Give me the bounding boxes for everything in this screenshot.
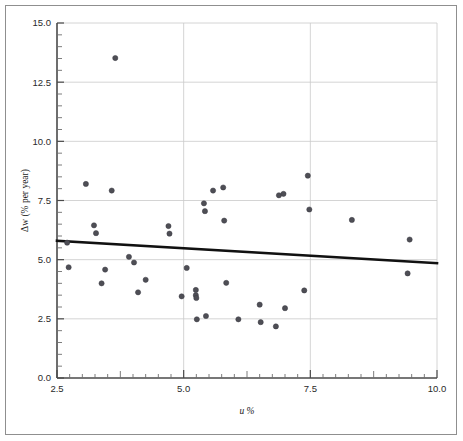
data-point — [184, 265, 189, 270]
data-points — [65, 55, 413, 329]
data-point — [349, 217, 354, 222]
x-axis-tick-label: 5.0 — [177, 383, 190, 394]
data-point — [305, 173, 310, 178]
data-point — [194, 317, 199, 322]
figure-container: 0.02.55.07.510.012.515.02.55.07.510.0 u … — [0, 0, 463, 441]
data-point — [307, 207, 312, 212]
data-point — [143, 277, 148, 282]
y-axis-title: Δw (% per year) — [20, 169, 31, 232]
data-point — [65, 240, 70, 245]
data-point — [203, 313, 208, 318]
y-axis-tick-label: 2.5 — [38, 313, 51, 324]
data-point — [113, 55, 118, 60]
y-axis-tick-label: 0.0 — [38, 372, 51, 383]
data-point — [194, 295, 199, 300]
data-point — [126, 254, 131, 259]
data-point — [93, 231, 98, 236]
data-point — [281, 191, 286, 196]
data-point — [201, 201, 206, 206]
data-point — [193, 287, 198, 292]
data-point — [405, 271, 410, 276]
data-point — [282, 306, 287, 311]
x-axis-title: u % — [239, 406, 254, 416]
y-axis-tick-label: 12.5 — [33, 77, 52, 88]
data-point — [135, 290, 140, 295]
data-point — [210, 188, 215, 193]
grid-lines — [57, 23, 437, 378]
x-axis-tick-label: 10.0 — [428, 383, 447, 394]
y-axis-tick-label: 7.5 — [38, 195, 51, 206]
data-point — [273, 324, 278, 329]
data-point — [257, 302, 262, 307]
y-axis-tick-label: 5.0 — [38, 254, 51, 265]
data-point — [302, 288, 307, 293]
data-point — [222, 218, 227, 223]
data-point — [66, 265, 71, 270]
axis-tick-labels: 0.02.55.07.510.012.515.02.55.07.510.0 — [33, 17, 447, 394]
data-point — [258, 320, 263, 325]
data-point — [109, 188, 114, 193]
y-axis-tick-label: 15.0 — [33, 17, 52, 28]
data-point — [103, 267, 108, 272]
data-point — [167, 231, 172, 236]
x-axis-tick-label: 2.5 — [50, 383, 63, 394]
scatter-plot-figure: 0.02.55.07.510.012.515.02.55.07.510.0 u … — [0, 0, 463, 441]
data-point — [221, 185, 226, 190]
data-point — [179, 294, 184, 299]
data-point — [407, 237, 412, 242]
data-point — [202, 209, 207, 214]
data-point — [131, 260, 136, 265]
data-point — [236, 317, 241, 322]
data-point — [166, 223, 171, 228]
data-point — [83, 181, 88, 186]
data-point — [224, 280, 229, 285]
scatter-plot-svg: 0.02.55.07.510.012.515.02.55.07.510.0 u … — [0, 0, 463, 441]
data-point — [91, 223, 96, 228]
x-axis-tick-label: 7.5 — [304, 383, 317, 394]
data-point — [99, 281, 104, 286]
y-axis-tick-label: 10.0 — [33, 136, 52, 147]
